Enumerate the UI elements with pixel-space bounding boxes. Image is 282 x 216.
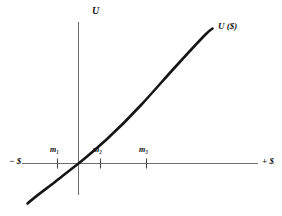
x-axis-negative-label: − $	[9, 157, 21, 166]
utility-curve	[28, 29, 213, 204]
tick-label-m3: m₃	[139, 146, 148, 154]
chart-canvas	[0, 0, 282, 216]
y-axis-label: U	[92, 6, 99, 16]
utility-function-figure: U − $ + $ m₁ m₂ m₃ U ($)	[0, 0, 282, 216]
tick-label-m1: m₁	[50, 146, 59, 154]
curve-label: U ($)	[218, 22, 237, 31]
tick-label-m2: m₂	[93, 146, 102, 154]
x-axis-positive-label: + $	[262, 157, 274, 166]
